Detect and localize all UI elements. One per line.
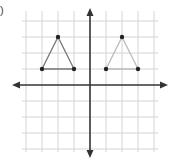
arrow-down-icon [87, 150, 94, 158]
coordinate-grid [0, 0, 177, 164]
vertex-point [72, 67, 76, 71]
vertex-point [136, 67, 140, 71]
vertex-point [104, 67, 108, 71]
arrow-left-icon [12, 82, 20, 89]
axes [12, 8, 168, 158]
arrow-up-icon [87, 8, 94, 16]
vertex-point [40, 67, 44, 71]
vertex-point [56, 35, 60, 39]
vertex-point [120, 35, 124, 39]
arrow-right-icon [160, 82, 168, 89]
